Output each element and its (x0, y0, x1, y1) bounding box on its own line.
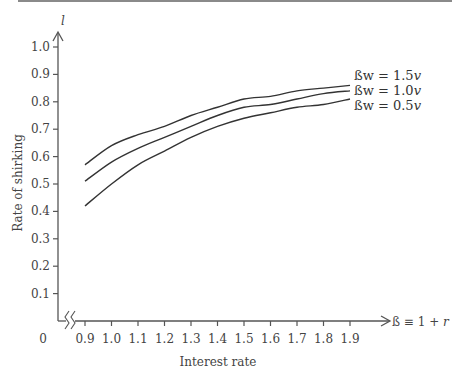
x-tick-label: 1.0 (102, 332, 121, 346)
x-tick-label: 1.2 (155, 332, 174, 346)
legend-item-0.5v: ßw = 0.5v (354, 98, 422, 113)
y-tick-label: 0.8 (31, 95, 50, 109)
x-tick-label: 1.4 (208, 332, 227, 346)
legend-item-1.0v: ßw = 1.0v (354, 83, 422, 98)
y-tick-label: 0.7 (31, 122, 50, 136)
x-axis-title: Interest rate (180, 355, 257, 369)
y-ticks: 0.10.20.30.40.50.60.70.80.91.0 (31, 40, 58, 301)
y-tick-label: 0.6 (31, 150, 50, 164)
x-tick-label: 1.7 (287, 332, 306, 346)
y-tick-label: 0.3 (31, 232, 50, 246)
curve-series-0 (85, 85, 350, 164)
y-tick-label: 0.1 (31, 287, 50, 301)
y-tick-label: 0.4 (31, 204, 50, 218)
legend-item-1.5v: ßw = 1.5v (354, 68, 422, 83)
y-tick-label: 0.9 (31, 67, 50, 81)
x-tick-label: 1.6 (261, 332, 280, 346)
x-tick-label: 1.9 (340, 332, 359, 346)
y-tick-label: 0.5 (31, 177, 50, 191)
x-tick-label: 0.9 (75, 332, 94, 346)
y-axis-symbol: l (61, 14, 65, 28)
x-ticks: 0.91.01.11.21.31.41.51.61.71.81.9 (75, 321, 359, 346)
x-tick-label: 1.5 (234, 332, 253, 346)
y-axis-title: Rate of shirking (11, 134, 25, 232)
shirking-chart: 0.10.20.30.40.50.60.70.80.91.0 0.91.01.1… (0, 0, 459, 381)
x-tick-label: 1.1 (128, 332, 147, 346)
axis-break-icon (65, 311, 75, 329)
y-tick-label: 0.2 (31, 259, 50, 273)
curve-series-1 (85, 91, 350, 181)
legend: ßw = 1.5v ßw = 1.0v ßw = 0.5v (354, 68, 422, 113)
y-tick-label: 1.0 (31, 40, 50, 54)
x-tick-label: 1.3 (181, 332, 200, 346)
x-tick-label: 1.8 (314, 332, 333, 346)
origin-label: 0 (39, 332, 47, 346)
axes: 0.10.20.30.40.50.60.70.80.91.0 0.91.01.1… (31, 32, 390, 346)
x-axis-symbol: ß ≡ 1 + r (392, 315, 450, 329)
curves (85, 85, 350, 206)
